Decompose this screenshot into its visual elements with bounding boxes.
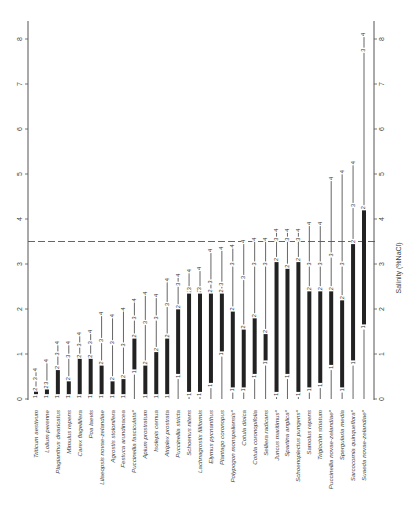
marker-4: 4 — [284, 229, 290, 232]
bar-25: 1234 — [306, 221, 312, 399]
marker-1: 1 — [54, 395, 60, 398]
bar-17: 1234 — [218, 246, 224, 399]
marker-4: 4 — [196, 267, 202, 270]
species-label: Triticum aestivum — [32, 410, 39, 458]
marker-4: 4 — [109, 314, 115, 317]
marker-3: 3 — [109, 341, 115, 344]
species-label: Sarcocornia quinqueflora* — [349, 409, 356, 481]
bar-1: 1234 — [43, 358, 49, 399]
bar-21: 1234 — [262, 237, 268, 399]
species-labels: Triticum aestivumLolium perennePlagianth… — [32, 409, 367, 489]
bar-8: 1234 — [120, 306, 126, 399]
marker-1: 1 — [295, 393, 301, 396]
marker-1: 1 — [306, 388, 312, 391]
marker-1: 1 — [218, 352, 224, 355]
species-label: Atriplex prostrata — [163, 409, 170, 457]
marker-1: 1 — [142, 395, 148, 398]
species-label: Agrostis stolonifera — [109, 409, 116, 463]
y-tick-label: 1 — [378, 352, 385, 356]
marker-2: 2 — [109, 377, 115, 380]
y-tick-label: 1 — [16, 352, 23, 356]
marker-2: 2 — [153, 348, 159, 351]
bar-5: 1234 — [87, 329, 93, 399]
marker-3: 3 — [43, 382, 49, 385]
y-tick-label: 7 — [16, 82, 23, 86]
marker-2: 2 — [306, 287, 312, 290]
marker-1: 1 — [164, 395, 170, 398]
marker-4: 4 — [120, 307, 126, 310]
marker-4: 4 — [131, 298, 137, 301]
marker-1: 1 — [328, 366, 334, 369]
species-label: Polypogon monspeliensis* — [229, 409, 236, 482]
bar-19: 1234 — [240, 239, 246, 399]
marker-1: 1 — [350, 361, 356, 364]
marker-2: 2 — [251, 314, 257, 317]
marker-4: 4 — [43, 359, 49, 362]
bar-13: 1234 — [175, 273, 181, 399]
marker-3: 3 — [142, 321, 148, 324]
bar-3: 1234 — [65, 340, 71, 399]
y-tick-label: 4 — [16, 217, 23, 221]
marker-4: 4 — [295, 229, 301, 232]
bar-9: 1234 — [131, 297, 137, 399]
marker-1: 1 — [273, 393, 279, 396]
marker-4: 4 — [65, 341, 71, 344]
species-label: Schoenoplectus pungens* — [294, 409, 301, 481]
marker-4: 4 — [153, 294, 159, 297]
marker-1: 1 — [196, 393, 202, 396]
marker-2: 2 — [87, 355, 93, 358]
bar-30: 1234 — [360, 32, 366, 399]
marker-2: 2 — [262, 330, 268, 333]
species-label: Lolium perenne — [43, 409, 50, 452]
marker-2: 2 — [273, 258, 279, 261]
species-label: Mimulus repens — [65, 410, 72, 454]
bar-2: 1234 — [54, 340, 60, 399]
species-label: Juncus maritimus* — [273, 409, 280, 461]
bar-23: 1234 — [284, 228, 290, 399]
species-label: Isolepis cernua — [152, 409, 159, 451]
marker-1: 1 — [207, 384, 213, 387]
species-label: Spartina anglica* — [283, 409, 290, 456]
marker-4: 4 — [54, 341, 60, 344]
marker-4: 4 — [186, 269, 192, 272]
y-tick-label: 0 — [378, 397, 385, 401]
species-label: Carex flagellifera — [76, 409, 83, 456]
species-label: Selliera radicans — [262, 410, 269, 456]
marker-1: 1 — [43, 395, 49, 398]
y-tick-label: 0 — [16, 397, 23, 401]
marker-2: 2 — [98, 361, 104, 364]
marker-2: 2 — [218, 289, 224, 292]
marker-2: 2 — [120, 375, 126, 378]
marker-2: 2 — [229, 307, 235, 310]
marker-3: 3 — [153, 316, 159, 319]
y-tick-label: 5 — [16, 172, 23, 176]
marker-3: 3 — [284, 238, 290, 241]
marker-1: 1 — [153, 395, 159, 398]
marker-1: 1 — [339, 388, 345, 391]
marker-2: 2 — [142, 361, 148, 364]
marker-1: 1 — [251, 375, 257, 378]
marker-4: 4 — [98, 312, 104, 315]
marker-1: 1 — [360, 325, 366, 328]
bar-18: 1234 — [229, 243, 235, 399]
marker-3: 3 — [339, 262, 345, 265]
y-tick-label: 6 — [16, 127, 23, 131]
y-tick-label: 7 — [378, 82, 385, 86]
marker-3: 3 — [120, 343, 126, 346]
marker-2: 2 — [284, 265, 290, 268]
marker-3: 3 — [229, 262, 235, 265]
marker-1: 1 — [317, 384, 323, 387]
marker-1: 1 — [65, 395, 71, 398]
marker-1: 1 — [240, 388, 246, 391]
bar-6: 1234 — [98, 311, 104, 399]
marker-1: 1 — [262, 361, 268, 364]
salinity-tolerance-chart: 012345678012345678 123412341234123412341… — [0, 0, 407, 520]
marker-4: 4 — [317, 222, 323, 225]
marker-2: 2 — [207, 289, 213, 292]
y-tick-label: 8 — [378, 37, 385, 41]
marker-1: 1 — [76, 395, 82, 398]
species-label: Cotula coronopifolia — [251, 409, 258, 464]
bar-29: 1234 — [350, 160, 356, 399]
bar-28: 1234 — [339, 169, 345, 399]
marker-4: 4 — [175, 274, 181, 277]
